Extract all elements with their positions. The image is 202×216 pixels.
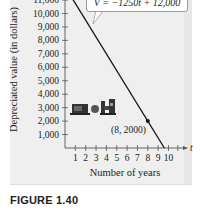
svg-text:5: 5 [114, 153, 119, 163]
svg-text:7,000: 7,000 [38, 49, 60, 59]
figure-caption: FIGURE 1.40 [10, 194, 78, 206]
svg-text:8: 8 [145, 153, 150, 163]
svg-text:4: 4 [104, 153, 109, 163]
svg-text:7: 7 [135, 153, 140, 163]
callout-pointer [93, 10, 104, 24]
svg-text:5,000: 5,000 [38, 76, 60, 86]
y-axis-label: Depreciated value (in dollars) [8, 0, 19, 145]
svg-text:3,000: 3,000 [38, 103, 60, 113]
svg-text:2: 2 [83, 153, 88, 163]
svg-text:10,000: 10,000 [33, 9, 59, 19]
machinery-icon [70, 99, 116, 115]
svg-text:6,000: 6,000 [38, 62, 60, 72]
svg-text:10: 10 [164, 153, 174, 163]
x-axis-label: Number of years [60, 167, 190, 178]
x-tick-labels: 12345678910 [73, 153, 174, 163]
svg-text:1,000: 1,000 [38, 130, 60, 140]
svg-text:2,000: 2,000 [38, 116, 60, 126]
chart-plot: 1,0002,0003,0004,0005,0006,0007,0008,000… [0, 0, 202, 216]
svg-text:9,000: 9,000 [38, 22, 60, 32]
equation-callout: V = −1250t + 12,000 [86, 0, 188, 12]
svg-text:3: 3 [94, 153, 99, 163]
svg-text:9: 9 [156, 153, 161, 163]
svg-text:6: 6 [125, 153, 130, 163]
svg-text:1: 1 [73, 153, 78, 163]
x-axis-variable: t [190, 143, 193, 153]
point-label: (8, 2000) [111, 125, 146, 136]
svg-text:11,000: 11,000 [33, 0, 59, 5]
svg-text:4,000: 4,000 [38, 89, 60, 99]
y-tick-labels: 1,0002,0003,0004,0005,0006,0007,0008,000… [33, 0, 59, 140]
svg-text:8,000: 8,000 [38, 35, 60, 45]
data-point [146, 119, 150, 123]
